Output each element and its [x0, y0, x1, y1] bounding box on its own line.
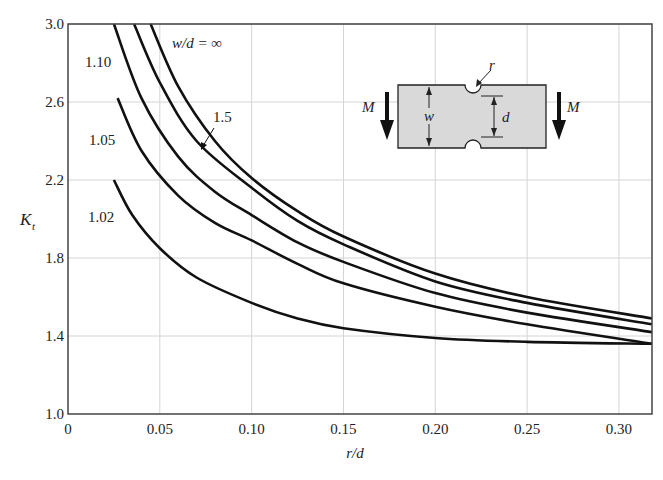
y-tick-labels: 1.01.41.82.22.63.0 — [45, 16, 64, 422]
label-1-05: 1.05 — [89, 132, 115, 148]
x-tick-label: 0.20 — [422, 421, 448, 437]
stress-concentration-chart: 00.050.100.150.200.250.30 1.01.41.82.22.… — [0, 0, 663, 480]
x-tick-label: 0.15 — [330, 421, 356, 437]
x-tick-label: 0.05 — [147, 421, 173, 437]
radius-label: r — [489, 57, 495, 73]
y-tick-label: 2.6 — [45, 94, 64, 110]
curve-1-05 — [118, 98, 652, 344]
grid-lines — [68, 24, 652, 414]
label-w-d-infinity: w/d = ∞ — [172, 35, 222, 51]
curve-w-d — [151, 24, 652, 318]
label-1-5: 1.5 — [213, 109, 232, 125]
y-tick-label: 2.2 — [45, 172, 64, 188]
curves — [114, 24, 652, 344]
x-tick-label: 0.30 — [606, 421, 632, 437]
x-tick-label: 0.25 — [514, 421, 540, 437]
x-tick-labels: 00.050.100.150.200.250.30 — [64, 421, 632, 437]
y-axis-label: K t — [19, 210, 36, 232]
depth-label: d — [502, 109, 510, 125]
moment-arrow-right — [552, 92, 566, 140]
x-tick-label: 0.10 — [239, 421, 265, 437]
width-label: w — [424, 108, 434, 124]
moment-arrow-left — [380, 92, 394, 140]
y-tick-label: 1.8 — [45, 250, 64, 266]
x-axis-label: r/d — [346, 445, 364, 461]
moment-label-left: M — [361, 99, 376, 115]
notched-plate — [398, 85, 546, 148]
y-axis-label-main: K — [19, 210, 33, 229]
y-tick-label: 3.0 — [45, 16, 64, 32]
y-axis-label-sub: t — [32, 220, 36, 232]
curve-1-10 — [114, 24, 652, 332]
label-1-02: 1.02 — [88, 209, 114, 225]
y-tick-label: 1.0 — [45, 406, 64, 422]
moment-label-right: M — [566, 99, 581, 115]
plot-frame — [68, 24, 652, 414]
y-tick-label: 1.4 — [45, 328, 64, 344]
x-tick-label: 0 — [64, 421, 72, 437]
label-1-10: 1.10 — [85, 54, 111, 70]
